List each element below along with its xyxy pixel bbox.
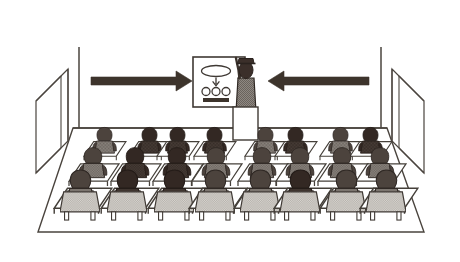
diagram-circle-node: [222, 88, 230, 96]
diagram-ellipse-node: [202, 66, 231, 77]
diagram-circle-node: [202, 88, 210, 96]
classroom-illustration: [0, 0, 460, 262]
diagram-dark-bar: [203, 98, 229, 102]
arrow-right-pointing-left: [268, 71, 369, 91]
diagram-circle-node: [212, 88, 220, 96]
arrow-left-pointing-right: [91, 71, 192, 91]
podium: [233, 107, 258, 140]
